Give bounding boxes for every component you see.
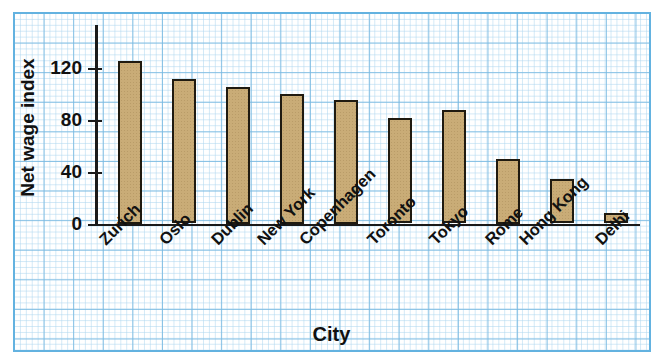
chart-figure: 120 80 40 0 Zurich Oslo Dublin New York … xyxy=(0,0,663,363)
bar-chart-plot: 120 80 40 0 Zurich Oslo Dublin New York … xyxy=(0,0,663,363)
y-tick-120 xyxy=(88,68,102,71)
y-tick-label-120: 120 xyxy=(36,58,82,77)
x-tick-label-oslo: Oslo xyxy=(156,210,194,248)
y-tick-label-40: 40 xyxy=(36,162,82,181)
bar-oslo xyxy=(172,79,196,223)
y-axis-line xyxy=(95,25,98,225)
y-tick-0 xyxy=(88,224,102,227)
y-tick-40 xyxy=(88,172,102,175)
x-axis-title: City xyxy=(0,324,663,344)
y-axis-title: Net wage index xyxy=(18,38,37,218)
x-tick-label-delhi: Delhi xyxy=(592,207,632,247)
y-tick-80 xyxy=(88,120,102,123)
y-tick-label-0: 0 xyxy=(36,214,82,233)
y-tick-label-80: 80 xyxy=(36,110,82,129)
